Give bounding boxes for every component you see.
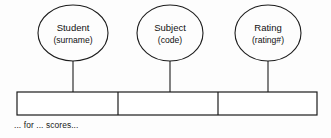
entity-refmode-subject: (code) [158,35,182,45]
entity-label-student: Student [57,22,90,33]
entity-ellipse-subject[interactable] [137,5,203,61]
fact-type-box[interactable] [17,92,317,115]
entity-student[interactable]: Student (surname) [38,5,108,61]
fact-type-reading-caption: ... for ... scores... [14,120,78,130]
orm-diagram-canvas: Student (surname) Subject (code) Rating … [0,0,331,138]
orm-diagram-svg: Student (surname) Subject (code) Rating … [0,0,331,138]
entity-ellipse-student[interactable] [38,5,108,61]
entity-rating[interactable]: Rating (rating#) [235,5,301,61]
entity-subject[interactable]: Subject (code) [137,5,203,61]
entity-label-subject: Subject [154,22,186,33]
entity-refmode-student: (surname) [53,35,92,45]
entity-ellipse-rating[interactable] [235,5,301,61]
connector-group [73,61,268,92]
entity-refmode-rating: (rating#) [252,35,284,45]
entity-label-rating: Rating [254,22,281,33]
fact-box-outline[interactable] [17,92,317,115]
